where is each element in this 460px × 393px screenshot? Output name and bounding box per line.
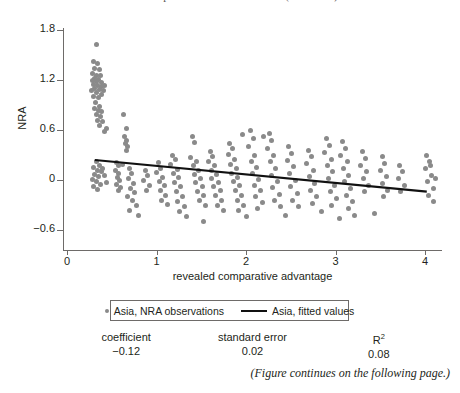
stat-r-squared: R2 0.08 bbox=[316, 330, 442, 362]
stat-label-text: R bbox=[373, 334, 381, 346]
figure-page: fitted values of the relationship betwee… bbox=[0, 0, 460, 393]
figure-continuation-note: (Figure continues on the following page.… bbox=[0, 366, 450, 381]
fitted-line-layer bbox=[0, 0, 460, 300]
stat-label: R2 bbox=[316, 330, 442, 347]
stat-label-superscript: 2 bbox=[381, 332, 385, 341]
line-marker-icon bbox=[241, 310, 267, 312]
stat-coefficient: coefficient −0.12 bbox=[63, 330, 189, 362]
stat-standard-error: standard error 0.02 bbox=[189, 330, 315, 362]
legend-entry-fitted: Asia, fitted values bbox=[241, 305, 354, 317]
dot-marker-icon bbox=[105, 309, 109, 313]
stat-label: standard error bbox=[189, 330, 315, 344]
legend-label-observations: Asia, NRA observations bbox=[114, 305, 224, 317]
stat-value: −0.12 bbox=[63, 344, 189, 359]
chart-legend: Asia, NRA observations Asia, fitted valu… bbox=[110, 300, 349, 321]
regression-statistics: coefficient −0.12 standard error 0.02 R2… bbox=[63, 330, 442, 362]
legend-entry-observations: Asia, NRA observations bbox=[105, 305, 224, 317]
stat-value: 0.08 bbox=[316, 347, 442, 362]
stat-label: coefficient bbox=[63, 330, 189, 344]
fitted-regression-line bbox=[95, 160, 427, 192]
legend-label-fitted: Asia, fitted values bbox=[272, 305, 354, 317]
plot-area: −0.600.61.21.8 01234 NRA revealed compar… bbox=[0, 0, 460, 300]
stat-value: 0.02 bbox=[189, 344, 315, 359]
